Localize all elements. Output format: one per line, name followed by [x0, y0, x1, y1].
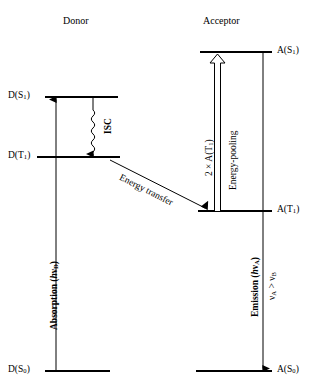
process-label-isc: ISC	[104, 118, 114, 134]
level-label-A_S0: A(S0)	[277, 365, 299, 375]
process-label-frequency-note: νA > νB	[268, 272, 278, 300]
level-label-A_S1: A(S1)	[277, 46, 299, 56]
level-label-D_S0: D(S0)	[8, 365, 30, 375]
diagram-canvas: Donor Acceptor D(S1) D(T1) D(S0) A(S1) A…	[0, 0, 312, 386]
process-label-pooling-stoich: 2 × A(T1)	[205, 139, 215, 176]
process-label-absorption: Absorption (hνD)	[50, 261, 60, 330]
process-label-emission: Emission (hνA)	[251, 257, 261, 317]
header-acceptor: Acceptor	[203, 16, 240, 26]
process-label-energy-pooling: Energy-pooling	[229, 131, 239, 190]
level-label-A_T1: A(T1)	[277, 205, 299, 215]
level-label-D_S1: D(S1)	[8, 91, 30, 101]
isc-wavy-arrow	[91, 98, 94, 158]
level-label-D_T1: D(T1)	[8, 151, 30, 161]
header-donor: Donor	[63, 16, 89, 26]
energy-pooling-hollow-arrow	[210, 54, 225, 211]
